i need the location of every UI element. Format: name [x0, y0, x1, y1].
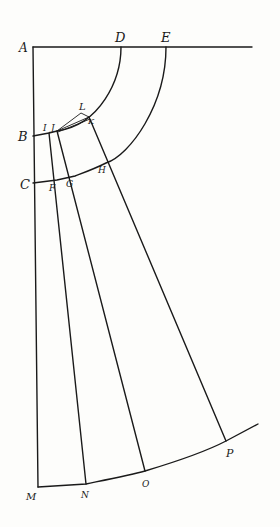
label-I: I [42, 123, 47, 133]
label-B: B [17, 129, 28, 144]
label-H: H [97, 165, 106, 175]
label-C: C [20, 177, 30, 192]
label-F: F [48, 183, 56, 193]
geometric-diagram: A D E B C I J L K F G H M N O P [0, 0, 280, 527]
label-N: N [80, 490, 90, 500]
arc-M-P [38, 424, 258, 487]
label-K: K [87, 117, 95, 126]
label-P: P [225, 447, 234, 460]
arc-E-C [33, 47, 166, 183]
ray-K-P [89, 117, 226, 441]
label-D: D [114, 30, 126, 45]
line-J-K-b [58, 119, 90, 132]
line-A-M [33, 47, 38, 487]
label-G: G [66, 179, 73, 189]
label-A: A [18, 41, 28, 55]
label-M: M [25, 491, 37, 502]
label-L: L [78, 101, 86, 112]
label-O: O [142, 479, 150, 489]
label-E: E [160, 30, 171, 45]
